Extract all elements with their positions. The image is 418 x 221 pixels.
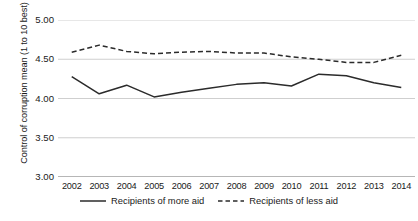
x-tick-label: 2008 [223, 180, 250, 193]
legend-item[interactable]: Recipients of less aid [218, 196, 338, 205]
y-tick-label: 3.50 [20, 133, 54, 143]
series-line [72, 45, 402, 62]
y-tick-label: 4.00 [20, 94, 54, 104]
x-tick-label: 2002 [58, 180, 85, 193]
gridlines [58, 20, 415, 177]
x-tick-label: 2003 [85, 180, 112, 193]
x-axis-tick-labels: 2002200320042005200620072008200920102011… [58, 180, 415, 193]
chart-legend: Recipients of more aidRecipients of less… [0, 196, 418, 205]
line-chart: Control of corruption mean (1 to 10 best… [0, 0, 418, 221]
x-tick-label: 2013 [360, 180, 387, 193]
y-tick-label: 5.00 [20, 15, 54, 25]
x-tick-label: 2014 [388, 180, 415, 193]
x-tick-label: 2011 [305, 180, 332, 193]
x-tick-label: 2012 [333, 180, 360, 193]
x-tick-label: 2006 [168, 180, 195, 193]
x-tick-label: 2004 [113, 180, 140, 193]
x-tick-label: 2005 [140, 180, 167, 193]
x-tick-label: 2010 [278, 180, 305, 193]
legend-item[interactable]: Recipients of more aid [80, 196, 204, 205]
x-tick-label: 2007 [195, 180, 222, 193]
dashed-line-icon [218, 197, 244, 205]
legend-label: Recipients of less aid [249, 196, 338, 205]
plot-area [58, 20, 415, 177]
y-tick-label: 3.00 [20, 172, 54, 182]
series-lines [72, 45, 402, 97]
legend-label: Recipients of more aid [111, 196, 204, 205]
y-tick-label: 4.50 [20, 54, 54, 64]
solid-line-icon [80, 197, 106, 205]
x-tick-label: 2009 [250, 180, 277, 193]
series-line [72, 74, 402, 97]
plot-svg [58, 20, 415, 177]
y-axis-tick-labels: 3.003.504.004.505.00 [18, 0, 54, 221]
